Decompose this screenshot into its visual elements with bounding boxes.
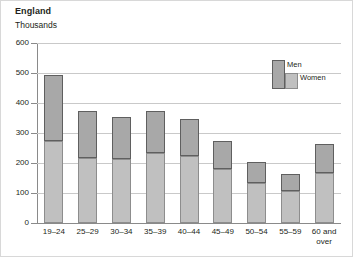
bar-group[interactable] [44, 43, 63, 223]
y-axis-label-wrap-200: 200 [1, 159, 29, 167]
x-axis-label: 60 and over [307, 227, 341, 246]
bar-segment-women[interactable] [213, 169, 232, 223]
y-axis-label-wrap-600: 600 [1, 39, 29, 47]
y-axis-label-wrap-400: 400 [1, 99, 29, 107]
y-axis-label-wrap-0: 0 [1, 219, 29, 227]
bar-segment-men[interactable] [315, 144, 334, 173]
bar-segment-men[interactable] [44, 75, 63, 142]
bar-segment-women[interactable] [247, 183, 266, 224]
y-axis-label-200: 200 [3, 159, 29, 167]
chart-legend: Men Women [272, 60, 344, 92]
x-axis-label: 19–24 [37, 227, 71, 237]
x-axis-label: 30–34 [105, 227, 139, 237]
legend-label-women: Women [300, 74, 326, 82]
bar-segment-women[interactable] [78, 158, 97, 223]
gridline-0 [37, 223, 341, 224]
bar-group[interactable] [180, 43, 199, 223]
legend-swatch-women [285, 73, 298, 89]
y-axis-label-wrap-300: 300 [1, 129, 29, 137]
chart-container: England Thousands 6005004003002001000 19… [0, 0, 353, 257]
bar-segment-men[interactable] [247, 162, 266, 183]
x-axis-label: 50–54 [240, 227, 274, 237]
bar-segment-women[interactable] [112, 159, 131, 223]
bar-segment-women[interactable] [281, 191, 300, 223]
x-axis-label: 55–59 [273, 227, 307, 237]
bar-segment-women[interactable] [180, 156, 199, 224]
x-axis-label: 45–49 [206, 227, 240, 237]
bar-group[interactable] [78, 43, 97, 223]
y-axis-label-300: 300 [3, 129, 29, 137]
bar-group[interactable] [213, 43, 232, 223]
bar-segment-men[interactable] [213, 141, 232, 169]
chart-title: England [15, 6, 51, 16]
y-axis-label-400: 400 [3, 99, 29, 107]
bar-group[interactable] [247, 43, 266, 223]
y-axis-label-wrap-100: 100 [1, 189, 29, 197]
y-axis-label-100: 100 [3, 189, 29, 197]
y-axis-label-wrap-500: 500 [1, 69, 29, 77]
bar-segment-men[interactable] [281, 174, 300, 191]
bar-segment-women[interactable] [315, 173, 334, 223]
bar-segment-men[interactable] [180, 119, 199, 156]
x-axis-label: 35–39 [138, 227, 172, 237]
bar-group[interactable] [112, 43, 131, 223]
legend-label-men: Men [287, 61, 302, 69]
bar-segment-men[interactable] [112, 117, 131, 159]
y-axis-label-600: 600 [3, 39, 29, 47]
y-axis-label-0: 0 [3, 219, 29, 227]
chart-subtitle: Thousands [15, 20, 57, 30]
bar-segment-women[interactable] [146, 153, 165, 223]
x-axis-label: 25–29 [71, 227, 105, 237]
bar-segment-women[interactable] [44, 141, 63, 223]
bar-group[interactable] [146, 43, 165, 223]
bar-segment-men[interactable] [78, 111, 97, 158]
x-axis-label: 40–44 [172, 227, 206, 237]
bar-segment-men[interactable] [146, 111, 165, 154]
legend-swatch-men [272, 60, 285, 89]
y-axis-label-500: 500 [3, 69, 29, 77]
